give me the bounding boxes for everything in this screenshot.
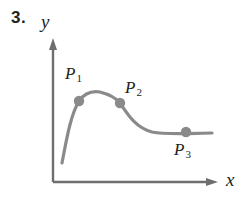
problem-number: 3. <box>11 9 26 26</box>
point-marker-p3 <box>181 127 191 137</box>
point-label-p1-letter: P <box>65 64 75 83</box>
point-label-p1: P1 <box>65 65 81 82</box>
point-label-p3-subscript: 3 <box>185 148 191 160</box>
point-marker-p1 <box>74 96 84 106</box>
point-marker-p2 <box>115 98 125 108</box>
y-axis-label: y <box>41 12 49 31</box>
x-axis-arrowhead <box>206 178 218 186</box>
point-label-p2: P2 <box>125 79 141 96</box>
graph-svg <box>0 0 250 197</box>
point-label-p3-letter: P <box>174 140 184 159</box>
point-label-p3: P3 <box>174 141 190 158</box>
figure-container: 3. y x P1 P2 P3 <box>0 0 250 197</box>
y-axis-arrowhead <box>49 38 57 50</box>
point-label-p2-letter: P <box>125 78 135 97</box>
point-label-p1-subscript: 1 <box>76 72 82 84</box>
point-label-p2-subscript: 2 <box>136 86 142 98</box>
x-axis-label: x <box>226 170 234 189</box>
